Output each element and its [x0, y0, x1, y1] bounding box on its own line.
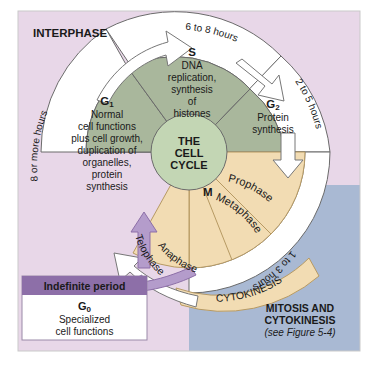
g2-line-1: synthesis [252, 124, 294, 135]
g1-line-4: organelles, [83, 157, 132, 168]
g1-line-6: synthesis [86, 181, 128, 192]
mitosis-caption-reference: (see Figure 5-4) [264, 327, 335, 338]
s-line-3: of [188, 96, 197, 107]
s-line-1: replication, [168, 72, 216, 83]
mitosis-caption-line-1: MITOSIS AND [266, 302, 335, 314]
g0-box: Indefinite period G0 Specialized cell fu… [22, 276, 147, 340]
g0-line-0: Specialized [59, 314, 110, 325]
g1-line-3: duplication of [78, 145, 137, 156]
g0-header-label: Indefinite period [44, 280, 126, 292]
m-label: M [203, 186, 213, 198]
s-name: S [188, 46, 196, 58]
g1-line-2: plus cell growth, [71, 133, 143, 144]
center-line-3: CYCLE [170, 159, 207, 171]
s-line-2: synthesis [171, 84, 213, 95]
interphase-label: INTERPHASE [33, 27, 107, 39]
g2-line-0: Protein [257, 112, 289, 123]
mitosis-caption: MITOSIS AND CYTOKINESIS (see Figure 5-4) [264, 302, 335, 338]
cell-cycle-figure: Indefinite period G0 Specialized cell fu… [0, 0, 378, 369]
mitosis-caption-line-2: CYTOKINESIS [265, 314, 336, 326]
g1-line-5: protein [92, 169, 123, 180]
s-line-4: histones [173, 108, 210, 119]
center-line-1: THE [178, 135, 200, 147]
center-line-2: CELL [175, 147, 204, 159]
g1-line-1: cell functions [78, 121, 136, 132]
s-line-0: DNA [181, 60, 202, 71]
g1-line-0: Normal [91, 109, 123, 120]
g0-line-1: cell functions [56, 326, 114, 337]
